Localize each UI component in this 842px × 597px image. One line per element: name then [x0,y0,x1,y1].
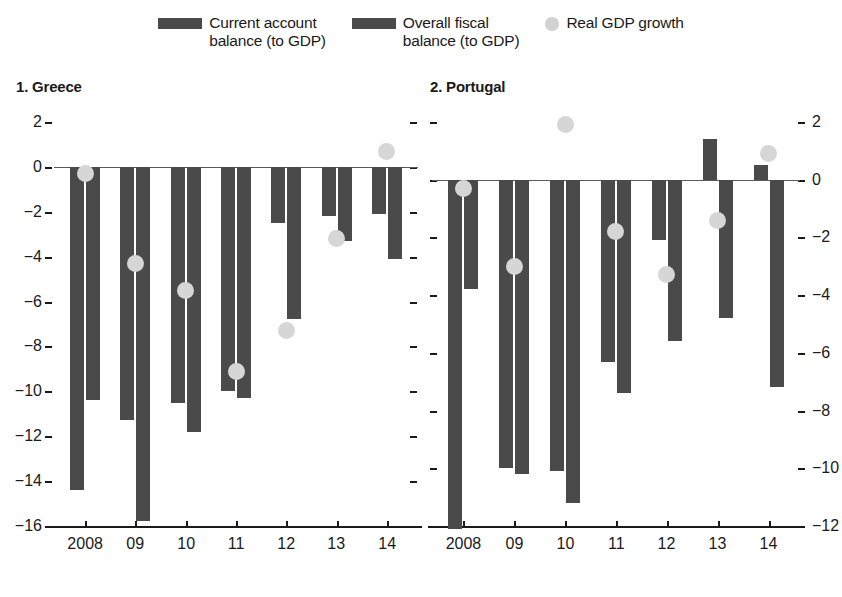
legend-item-real-gdp-growth: Real GDP growth [545,14,683,32]
bar-overall-fiscal-14 [770,180,784,388]
y-axis-tick-label: −12 [812,518,840,534]
y-axis-tick-label: −16 [14,518,42,534]
legend-label-real-gdp-growth: Real GDP growth [566,14,683,32]
x-axis-tickmark [565,521,567,527]
y-axis-tick-label: −8 [14,338,42,354]
y-axis-tick-label: −4 [812,287,840,303]
chart-legend: Current accountbalance (to GDP)Overall f… [0,14,842,50]
y-axis-tickmark [45,257,52,259]
bar-overall-fiscal-12 [668,180,682,342]
y-axis-tickmark [798,353,805,355]
y-axis-tickmark-mirror [430,237,437,239]
x-axis-tick-label: 11 [211,536,261,552]
bar-current-account-11 [601,180,615,362]
bar-overall-fiscal-10 [187,167,201,432]
zero-line [432,180,800,181]
y-axis-tick-label: 2 [812,114,840,130]
y-axis-tickmark-mirror [410,436,417,438]
marker-real-gdp-growth-11 [228,363,245,380]
x-axis-tickmark [769,521,771,527]
legend-label-line2: balance (to GDP) [403,32,520,50]
x-axis-tickmark [135,521,137,527]
x-axis-tick-label: 14 [362,536,412,552]
marker-real-gdp-growth-10 [557,116,574,133]
marker-real-gdp-growth-13 [328,230,345,247]
y-axis-tick-label: −4 [14,249,42,265]
x-axis-tick-label: 11 [591,536,642,552]
bar-current-account-13 [322,167,336,216]
y-axis-tickmark-mirror [410,346,417,348]
bar-current-account-2008 [448,180,462,529]
panel-greece: 1. Greece 20−2−4−6−8−10−12−14−1620080910… [14,78,424,588]
bar-overall-fiscal-10 [566,180,580,503]
legend-label-line1: Real GDP growth [566,14,683,31]
bar-current-account-13 [703,139,717,179]
x-axis-tickmark [616,521,618,527]
bar-current-account-12 [652,180,666,241]
bar-current-account-09 [120,167,134,421]
bar-current-account-2008 [70,167,84,490]
panel-portugal: 2. Portugal 20−2−4−6−8−10−12200809101112… [428,78,840,588]
marker-real-gdp-growth-09 [506,258,523,275]
y-axis-tick-label: −8 [812,403,840,419]
bar-overall-fiscal-09 [515,180,529,474]
bar-current-account-09 [499,180,513,469]
legend-swatch-icon-current-account-balance [158,18,202,29]
y-axis-tickmark-mirror [410,391,417,393]
y-axis-tickmark [45,302,52,304]
legend-label-overall-fiscal-balance: Overall fiscalbalance (to GDP) [403,14,520,50]
bar-overall-fiscal-2008 [86,167,100,400]
legend-label-line1: Overall fiscal [403,14,489,31]
x-axis-tickmark [718,521,720,527]
x-axis-tick-label: 14 [743,536,794,552]
plot-area-greece: 20−2−4−6−8−10−12−14−162008091011121314 [14,110,424,588]
y-axis-tick-label: 0 [14,159,42,175]
y-axis-tickmark [45,391,52,393]
bar-overall-fiscal-11 [617,180,631,394]
bar-overall-fiscal-13 [719,180,733,319]
x-axis-tick-label: 2008 [60,536,110,552]
marker-real-gdp-growth-14 [378,143,395,160]
y-axis-tick-label: 0 [812,172,840,188]
y-axis-tick-label: −2 [14,204,42,220]
y-axis-tickmark [45,167,52,169]
y-axis-tick-label: −6 [812,345,840,361]
y-axis-tick-label: −6 [14,294,42,310]
y-axis-tickmark-mirror [410,212,417,214]
y-axis-tickmark [798,411,805,413]
y-axis-tickmark [45,346,52,348]
x-axis-tickmark [514,521,516,527]
y-axis-tickmark-mirror [410,122,417,124]
y-axis-tickmark [798,237,805,239]
marker-real-gdp-growth-2008 [455,180,472,197]
y-axis-tickmark [45,122,52,124]
x-axis-tickmark [337,521,339,527]
y-axis-tickmark [45,212,52,214]
chart-page: { "legend": { "items": [ {"name":"curren… [0,0,842,597]
y-axis-tickmark [798,295,805,297]
y-axis-tickmark-mirror [430,295,437,297]
zero-line [54,167,418,168]
y-axis-tickmark-mirror [410,481,417,483]
bar-current-account-10 [550,180,564,471]
y-axis-tickmark-mirror [430,353,437,355]
y-axis-tickmark [45,436,52,438]
x-axis-tickmark [387,521,389,527]
y-axis-tickmark [798,122,805,124]
marker-real-gdp-growth-13 [709,212,726,229]
bar-overall-fiscal-14 [388,167,402,259]
y-axis-tickmark-mirror [430,468,437,470]
bar-current-account-11 [221,167,235,391]
marker-real-gdp-growth-12 [278,322,295,339]
x-axis-tickmark [85,521,87,527]
y-axis-tickmark [798,468,805,470]
x-axis-tickmark [667,521,669,527]
panel-title-portugal: 2. Portugal [430,78,505,95]
marker-real-gdp-growth-14 [760,145,777,162]
y-axis-tickmark-mirror [430,411,437,413]
y-axis-tickmark [45,481,52,483]
bar-current-account-14 [372,167,386,214]
marker-real-gdp-growth-2008 [77,165,94,182]
y-axis-tick-label: −12 [14,428,42,444]
y-axis-tick-label: −2 [812,229,840,245]
